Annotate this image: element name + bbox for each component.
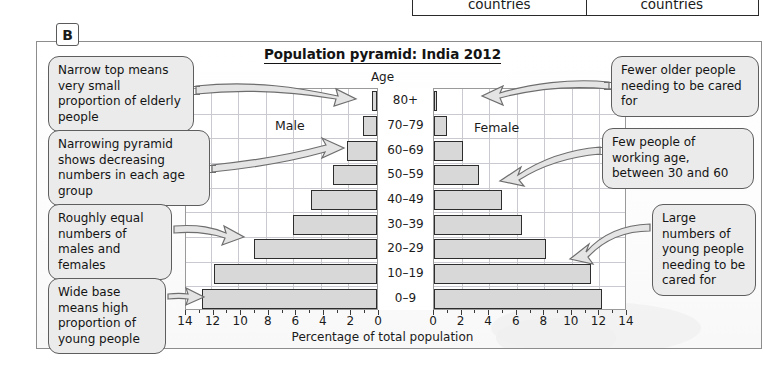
age-group-label: 70–79 bbox=[378, 114, 433, 136]
age-group-label: 0–9 bbox=[378, 287, 433, 309]
x-axis-tick-label: 12 bbox=[201, 314, 225, 328]
gridline-horizontal bbox=[186, 237, 377, 238]
x-axis-minor-tick bbox=[530, 310, 531, 313]
table-cell-right: countries bbox=[586, 0, 759, 12]
chart-title-text: Population pyramid: India 2012 bbox=[264, 46, 501, 64]
callout-narrowing: Narrowing pyramid shows decreasing numbe… bbox=[48, 130, 210, 206]
gridline-horizontal bbox=[434, 286, 625, 287]
x-axis-tick-label: 8 bbox=[256, 314, 280, 328]
pyramid-bar bbox=[434, 91, 437, 111]
x-axis-tick-label: 6 bbox=[504, 314, 528, 328]
x-axis-tick-label: 0 bbox=[421, 314, 445, 328]
pyramid-bar bbox=[434, 190, 502, 210]
leader-line-2 bbox=[194, 94, 200, 95]
x-axis-minor-tick bbox=[474, 310, 475, 313]
female-series-label: Female bbox=[474, 120, 519, 135]
callout-roughly-equal: Roughly equal numbers of males and femal… bbox=[48, 204, 172, 280]
age-group-label: 10–19 bbox=[378, 262, 433, 284]
pyramid-bar bbox=[347, 141, 377, 161]
x-axis-minor-tick bbox=[226, 310, 227, 313]
x-axis-minor-tick bbox=[557, 310, 558, 313]
pyramid-bar bbox=[363, 116, 377, 136]
x-axis-tick-label: 10 bbox=[228, 314, 252, 328]
age-group-label: 80+ bbox=[378, 89, 433, 111]
gridline-vertical bbox=[211, 89, 212, 309]
pyramid-bar bbox=[372, 91, 377, 111]
pyramid-bar bbox=[434, 141, 463, 161]
x-axis-minor-tick bbox=[337, 310, 338, 313]
gridline-horizontal bbox=[434, 212, 625, 213]
age-group-label: 30–39 bbox=[378, 213, 433, 235]
figure-label-badge: B bbox=[56, 23, 79, 46]
gridline-horizontal bbox=[434, 262, 625, 263]
x-axis: 1412108642002468101214 bbox=[185, 310, 626, 328]
gridline-horizontal bbox=[434, 163, 625, 164]
pyramid-bar bbox=[202, 289, 377, 309]
table-cell-left: countries bbox=[413, 0, 586, 12]
pyramid-bar bbox=[333, 165, 377, 185]
age-group-label: 50–59 bbox=[378, 163, 433, 185]
gridline-horizontal bbox=[434, 138, 625, 139]
top-table-fragment: countries countries bbox=[412, 0, 759, 16]
pyramid-bar bbox=[214, 264, 377, 284]
x-axis-minor-tick bbox=[199, 310, 200, 313]
pyramid-bar bbox=[254, 239, 377, 259]
gridline-horizontal bbox=[434, 114, 625, 115]
age-group-label-column: 0–910–1920–2930–3940–4950–5960–6970–7980… bbox=[378, 88, 433, 310]
age-group-label: 20–29 bbox=[378, 237, 433, 259]
page-root: countries countries B Population pyramid… bbox=[0, 0, 765, 368]
x-axis-minor-tick bbox=[309, 310, 310, 313]
x-axis-tick-label: 2 bbox=[338, 314, 362, 328]
pyramid-bar bbox=[434, 289, 602, 309]
male-series-label: Male bbox=[275, 118, 305, 133]
leader-line-4 bbox=[210, 172, 216, 173]
x-axis-tick-label: 14 bbox=[614, 314, 638, 328]
gridline-horizontal bbox=[434, 188, 625, 189]
pyramid-bar bbox=[434, 264, 591, 284]
x-axis-tick-label: 8 bbox=[531, 314, 555, 328]
gridline-vertical bbox=[599, 89, 600, 309]
x-axis-tick-label: 10 bbox=[559, 314, 583, 328]
x-axis-minor-tick bbox=[612, 310, 613, 313]
pyramid-bar bbox=[434, 165, 479, 185]
x-axis-tick-label: 6 bbox=[283, 314, 307, 328]
gridline-horizontal bbox=[434, 237, 625, 238]
x-axis-minor-tick bbox=[254, 310, 255, 313]
x-axis-tick-label: 4 bbox=[476, 314, 500, 328]
callout-fewer-older: Fewer older people needing to be cared f… bbox=[611, 56, 759, 117]
x-axis-tick-label: 0 bbox=[366, 314, 390, 328]
callout-narrow-top: Narrow top means very small proportion o… bbox=[48, 56, 194, 132]
callout-wide-base: Wide base means high proportion of young… bbox=[48, 278, 166, 354]
age-group-label: 40–49 bbox=[378, 188, 433, 210]
gridline-horizontal bbox=[186, 212, 377, 213]
x-axis-minor-tick bbox=[364, 310, 365, 313]
female-plot-half bbox=[433, 88, 626, 310]
x-axis-minor-tick bbox=[585, 310, 586, 313]
callout-few-working-age: Few people of working age, between 30 an… bbox=[602, 128, 754, 189]
gridline-horizontal bbox=[186, 286, 377, 287]
x-axis-minor-tick bbox=[282, 310, 283, 313]
population-pyramid-plot: 0–910–1920–2930–3940–4950–5960–6970–7980… bbox=[185, 88, 626, 310]
gridline-horizontal bbox=[186, 163, 377, 164]
gridline-horizontal bbox=[186, 188, 377, 189]
gridline-horizontal bbox=[186, 138, 377, 139]
x-axis-tick-label: 2 bbox=[449, 314, 473, 328]
callout-large-young: Large numbers of young people needing to… bbox=[652, 204, 756, 296]
x-axis-minor-tick bbox=[447, 310, 448, 313]
pyramid-bar bbox=[311, 190, 377, 210]
x-axis-tick-label: 14 bbox=[173, 314, 197, 328]
age-group-label: 60–69 bbox=[378, 139, 433, 161]
pyramid-bar bbox=[293, 215, 377, 235]
pyramid-bar bbox=[434, 116, 447, 136]
gridline-horizontal bbox=[186, 262, 377, 263]
x-axis-tick-label: 4 bbox=[311, 314, 335, 328]
x-axis-tick-label: 12 bbox=[586, 314, 610, 328]
leader-line-3 bbox=[210, 165, 216, 166]
pyramid-bar bbox=[434, 239, 546, 259]
gridline-horizontal bbox=[186, 114, 377, 115]
x-axis-minor-tick bbox=[502, 310, 503, 313]
leader-line-1 bbox=[194, 86, 200, 87]
pyramid-bar bbox=[434, 215, 522, 235]
